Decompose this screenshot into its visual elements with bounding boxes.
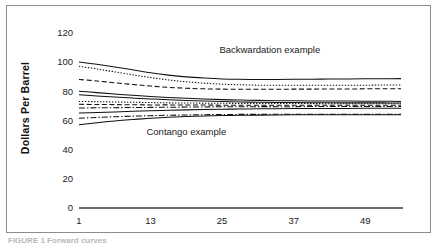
curve-contango-dashdot-mid [79, 106, 401, 107]
curve-contango-solid-upper [79, 91, 401, 101]
y-axis-tick-label: 80 [62, 86, 73, 97]
chart-plot-area: 020406080100120113253749Dollars Per Barr… [7, 6, 430, 232]
y-axis-tick-label: 60 [62, 115, 73, 126]
curve-contango-solid-lower [79, 108, 401, 113]
figure-frame: 020406080100120113253749Dollars Per Barr… [6, 5, 431, 233]
y-axis-tick-label: 100 [57, 56, 73, 67]
y-axis-tick-label: 120 [57, 27, 73, 38]
figure-caption: FIGURE 1 Forward curves [8, 236, 428, 245]
futures-curve-chart: 020406080100120113253749Dollars Per Barr… [7, 6, 432, 234]
chart-annotation: Contango example [146, 126, 226, 137]
x-axis-tick-label: 13 [145, 215, 156, 226]
y-axis-title: Dollars Per Barrel [19, 62, 31, 154]
x-axis-tick-label: 49 [360, 215, 371, 226]
y-axis-tick-label: 20 [62, 173, 73, 184]
y-axis-tick-label: 0 [68, 202, 73, 213]
y-axis-tick-label: 40 [62, 144, 73, 155]
x-axis-tick-label: 25 [217, 215, 228, 226]
curve-backwardation-solid [79, 62, 401, 80]
curve-contango-dashed-mid [79, 104, 401, 105]
x-axis-tick-label: 1 [76, 215, 81, 226]
chart-annotation: Backwardation example [219, 44, 320, 55]
x-axis-tick-label: 37 [288, 215, 299, 226]
